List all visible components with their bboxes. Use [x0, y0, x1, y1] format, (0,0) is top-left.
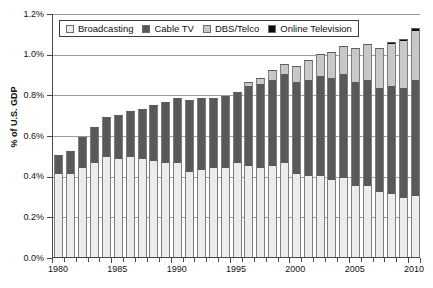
bar-segment-dbs-telco: [316, 54, 325, 76]
plot-area: [52, 14, 420, 258]
bar-segment-cable-tv: [54, 155, 63, 173]
bar-segment-cable-tv: [102, 117, 111, 158]
bar-segment-dbs-telco: [256, 78, 265, 84]
bar-1988: [149, 105, 158, 258]
bar-segment-broadcasting: [256, 168, 265, 257]
x-axis-labels: 1980198519901995200020052010: [0, 262, 433, 282]
bar-1994: [221, 96, 230, 257]
bar-segment-cable-tv: [149, 105, 158, 162]
bar-segment-dbs-telco: [375, 48, 384, 89]
bar-segment-dbs-telco: [351, 48, 360, 83]
bar-segment-broadcasting: [387, 194, 396, 257]
bar-segment-broadcasting: [138, 159, 147, 257]
bar-segment-broadcasting: [209, 168, 218, 257]
bar-segment-broadcasting: [316, 176, 325, 257]
legend-swatch-icon: [66, 25, 74, 33]
y-axis-tick-label: 0.6%: [23, 132, 44, 141]
bar-segment-cable-tv: [209, 98, 218, 167]
bar-segment-broadcasting: [173, 163, 182, 257]
bar-segment-broadcasting: [268, 166, 277, 258]
bar-segment-broadcasting: [244, 166, 253, 258]
bar-segment-cable-tv: [161, 102, 170, 163]
x-axis-tick-label: 2000: [285, 264, 305, 274]
bar-segment-cable-tv: [411, 80, 420, 196]
legend-swatch-icon: [142, 25, 150, 33]
legend-item-online-television: Online Television: [268, 24, 352, 34]
bar-segment-dbs-telco: [339, 46, 348, 74]
legend-item-label: Online Television: [280, 24, 352, 34]
bar-1980: [54, 155, 63, 257]
bar-segment-broadcasting: [292, 174, 301, 257]
bar-segment-broadcasting: [197, 170, 206, 257]
bar-segment-broadcasting: [66, 174, 75, 257]
y-axis-tick: [47, 258, 52, 259]
legend-swatch-icon: [268, 25, 276, 33]
bar-segment-dbs-telco: [399, 41, 408, 88]
bar-segment-cable-tv: [114, 115, 123, 160]
bar-2002: [316, 54, 325, 257]
y-axis-tick-label: 1.2%: [23, 10, 44, 19]
bar-segment-dbs-telco: [387, 44, 396, 87]
bar-segment-cable-tv: [244, 86, 253, 165]
legend-item-label: Cable TV: [154, 24, 193, 34]
y-axis-tick: [47, 14, 52, 15]
x-axis-tick-label: 1995: [226, 264, 246, 274]
bar-segment-broadcasting: [185, 172, 194, 257]
bar-segment-cable-tv: [173, 98, 182, 163]
bar-segment-online-television: [387, 42, 396, 43]
legend-item-label: DBS/Telco: [215, 24, 259, 34]
bar-segment-online-television: [399, 39, 408, 41]
bar-segment-cable-tv: [78, 137, 87, 168]
y-axis-tick: [47, 95, 52, 96]
bar-1987: [138, 109, 147, 257]
bar-segment-broadcasting: [339, 178, 348, 257]
bar-segment-dbs-telco: [244, 82, 253, 86]
bar-segment-broadcasting: [399, 198, 408, 257]
bar-1983: [90, 127, 99, 257]
bar-segment-broadcasting: [233, 163, 242, 257]
bar-segment-broadcasting: [375, 192, 384, 257]
y-axis-tick-label: 0.2%: [23, 213, 44, 222]
bar-segment-dbs-telco: [411, 31, 420, 80]
bar-segment-broadcasting: [221, 168, 230, 257]
bar-2008: [387, 45, 396, 257]
bar-segment-cable-tv: [268, 80, 277, 165]
bar-2003: [327, 52, 336, 257]
bar-segment-cable-tv: [138, 109, 147, 160]
bar-segment-online-television: [411, 28, 420, 31]
bar-2005: [351, 48, 360, 257]
bar-1996: [244, 82, 253, 257]
bar-1989: [161, 102, 170, 257]
bar-segment-dbs-telco: [292, 66, 301, 82]
bar-segment-cable-tv: [233, 92, 242, 163]
bar-segment-cable-tv: [292, 82, 301, 174]
chart-container: % of U.S. GDP 0.0%0.2%0.4%0.6%0.8%1.0%1.…: [0, 0, 433, 288]
bar-segment-broadcasting: [363, 186, 372, 257]
bar-segment-broadcasting: [304, 176, 313, 257]
x-axis-tick-label: 1980: [48, 264, 68, 274]
y-axis-tick: [47, 55, 52, 56]
bar-1984: [102, 117, 111, 257]
y-axis-tick-label: 0.8%: [23, 91, 44, 100]
bar-segment-cable-tv: [304, 80, 313, 176]
y-axis-tick: [47, 217, 52, 218]
bars-layer: [53, 14, 420, 257]
chart-legend: BroadcastingCable TVDBS/TelcoOnline Tele…: [59, 20, 359, 37]
y-axis-tick-label: 1.0%: [23, 50, 44, 59]
bar-1981: [66, 151, 75, 257]
bar-segment-cable-tv: [363, 80, 372, 186]
bar-2000: [292, 66, 301, 257]
bar-segment-cable-tv: [327, 78, 336, 180]
bar-2010: [411, 28, 420, 257]
bar-1995: [233, 92, 242, 257]
bar-2009: [399, 40, 408, 257]
bar-2006: [363, 44, 372, 258]
bar-segment-broadcasting: [54, 174, 63, 257]
bar-segment-broadcasting: [280, 163, 289, 257]
bar-segment-broadcasting: [327, 180, 336, 257]
bar-segment-broadcasting: [102, 157, 111, 257]
bar-segment-cable-tv: [221, 96, 230, 167]
bar-segment-cable-tv: [316, 76, 325, 176]
bar-segment-broadcasting: [90, 163, 99, 257]
y-axis-labels: 0.0%0.2%0.4%0.6%0.8%1.0%1.2%: [0, 0, 48, 288]
